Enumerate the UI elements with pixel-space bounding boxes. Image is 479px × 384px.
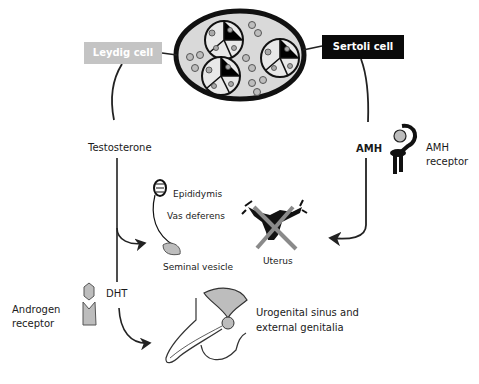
androgen-receptor-label-line2: receptor [12,317,54,330]
epididymis-label: Epididymis [173,188,222,201]
dht-label: DHT [106,287,127,300]
amh-receptor-icon [390,126,415,174]
androgen-receptor-label-line1: Androgen [12,303,60,316]
uterus-label: Uterus [263,255,293,268]
vas-deferens-label: Vas deferens [167,210,225,223]
testis-cross-section-icon [176,11,304,99]
urogenital-label-line1: Urogenital sinus and [256,306,359,319]
androgen-receptor-icon [83,283,96,325]
amh-receptor-label-line2: receptor [426,155,468,168]
amh-label: AMH [356,142,382,155]
diagram-graphics [0,0,479,384]
leydig-cell-label: Leydig cell [84,42,162,64]
sertoli-cell-label: Sertoli cell [322,35,404,59]
amh-receptor-label-line1: AMH [426,141,449,154]
seminal-vesicle-label: Seminal vesicle [163,261,233,274]
uterus-icon [242,200,307,249]
urogenital-sinus-icon [166,288,247,362]
testosterone-label: Testosterone [88,141,152,154]
urogenital-label-line2: external genitalia [256,321,344,334]
